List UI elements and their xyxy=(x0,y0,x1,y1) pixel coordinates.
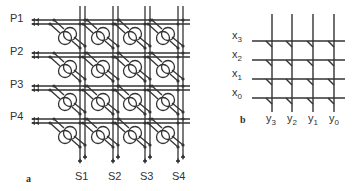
col-label-y0: y0 xyxy=(329,113,339,125)
row-label-x1: x1 xyxy=(232,68,242,80)
col-label-s4: S4 xyxy=(172,171,185,182)
panel-label-b: b xyxy=(240,114,246,125)
row-label-p3: P3 xyxy=(10,79,23,90)
row-label-x3: x3 xyxy=(232,30,242,42)
panel-label-a: a xyxy=(26,173,31,184)
col-label-y3: y3 xyxy=(266,113,276,125)
col-label-s2: S2 xyxy=(108,171,121,182)
row-label-x0: x0 xyxy=(232,87,242,99)
crossbar-diagram-a xyxy=(0,0,357,191)
col-label-y2: y2 xyxy=(287,113,297,125)
row-label-p4: P4 xyxy=(10,111,23,122)
col-label-s3: S3 xyxy=(140,171,153,182)
col-label-s1: S1 xyxy=(75,171,88,182)
row-label-p1: P1 xyxy=(10,13,23,24)
col-label-y1: y1 xyxy=(308,113,318,125)
row-label-x2: x2 xyxy=(232,49,242,61)
row-label-p2: P2 xyxy=(10,46,23,57)
